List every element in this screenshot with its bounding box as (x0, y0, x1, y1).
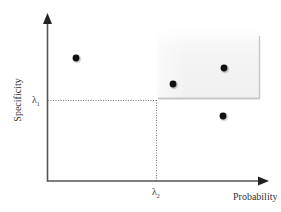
lambda2-subscript: 2 (157, 193, 160, 199)
data-point (221, 65, 228, 72)
lambda1-label: λ1 (32, 94, 40, 107)
y-axis-arrow-icon (43, 13, 52, 24)
x-axis-arrow-icon (258, 177, 269, 186)
y-axis-label: Specificity (12, 78, 23, 121)
x-axis-label: Probability (233, 191, 277, 202)
lambda2-label: λ2 (152, 186, 160, 199)
data-point (73, 55, 80, 62)
data-point (220, 113, 227, 120)
diagram-canvas (0, 0, 281, 212)
lambda1-subscript: 1 (37, 101, 40, 107)
data-point (170, 81, 177, 88)
